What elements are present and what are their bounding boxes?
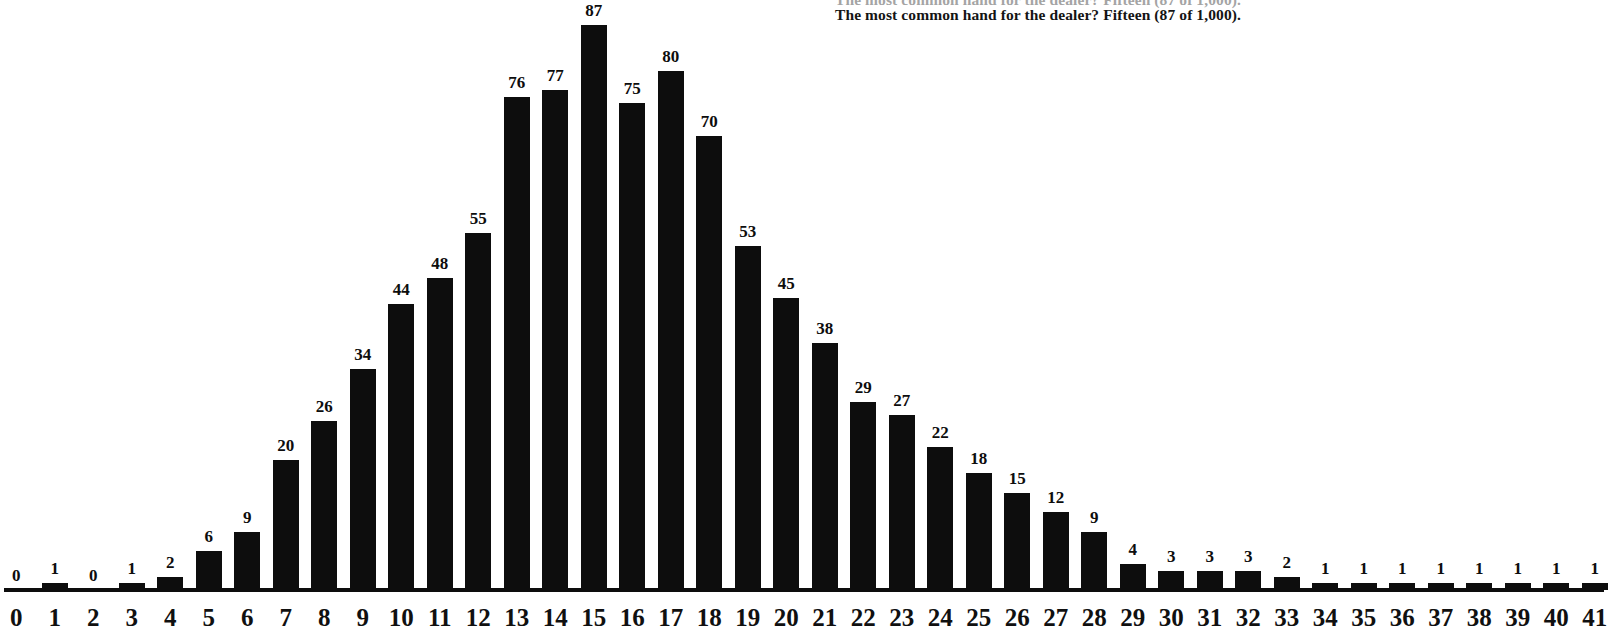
bar-value-label: 1 [1398, 560, 1407, 577]
bar-value-label: 15 [1009, 470, 1026, 487]
bar-slot: 207 [267, 0, 306, 634]
bar-value-label: 80 [662, 48, 679, 65]
bar-slot: 330 [1152, 0, 1191, 634]
x-axis-tick-label: 25 [966, 605, 991, 630]
bar[interactable] [388, 304, 414, 590]
x-axis-tick-label: 30 [1159, 605, 1184, 630]
bar[interactable] [1466, 583, 1492, 590]
bar[interactable] [658, 71, 684, 590]
bar-value-label: 34 [354, 346, 371, 363]
bar-value-label: 3 [1206, 548, 1215, 565]
bar-slot: 928 [1075, 0, 1114, 634]
bar-value-label: 1 [1321, 560, 1330, 577]
bar-slot: 331 [1191, 0, 1230, 634]
bar-slot: 00 [0, 0, 36, 634]
bar[interactable] [735, 246, 761, 590]
bar[interactable] [1428, 583, 1454, 590]
bar-slot: 134 [1306, 0, 1345, 634]
bar[interactable] [619, 103, 645, 590]
bar[interactable] [1543, 583, 1569, 590]
bar-value-label: 1 [1552, 560, 1561, 577]
bar-slot: 4520 [767, 0, 806, 634]
bar[interactable] [966, 473, 992, 590]
bar[interactable] [812, 343, 838, 590]
bar-slot: 141 [1576, 0, 1611, 634]
bar[interactable] [1235, 571, 1261, 590]
bar-value-label: 3 [1244, 548, 1253, 565]
bar[interactable] [1081, 532, 1107, 590]
bar-value-label: 29 [855, 379, 872, 396]
bar[interactable] [427, 278, 453, 590]
bar-slot: 4811 [421, 0, 460, 634]
bar-value-label: 48 [431, 255, 448, 272]
x-axis-tick-label: 9 [357, 605, 370, 630]
bar-value-label: 1 [128, 560, 137, 577]
x-axis-tick-label: 11 [428, 605, 452, 630]
bar[interactable] [504, 97, 530, 590]
bar[interactable] [1351, 583, 1377, 590]
bar-slot: 429 [1114, 0, 1153, 634]
bar[interactable] [311, 421, 337, 590]
bar-value-label: 1 [1591, 560, 1600, 577]
bar-slot: 2922 [844, 0, 883, 634]
bar-slot: 233 [1268, 0, 1307, 634]
bar-slot: 268 [305, 0, 344, 634]
x-axis-tick-label: 15 [581, 605, 606, 630]
x-axis-tick-label: 38 [1467, 605, 1492, 630]
x-axis-tick-label: 5 [203, 605, 216, 630]
bar[interactable] [196, 551, 222, 590]
bar[interactable] [542, 90, 568, 590]
x-axis-tick-label: 17 [658, 605, 683, 630]
bar[interactable] [1197, 571, 1223, 590]
bar[interactable] [465, 233, 491, 590]
bar[interactable] [157, 577, 183, 590]
bar[interactable] [42, 583, 68, 590]
x-axis-tick-label: 1 [49, 605, 62, 630]
bar[interactable] [1120, 564, 1146, 590]
x-axis-tick-label: 24 [928, 605, 953, 630]
bar[interactable] [696, 136, 722, 590]
bar-slot: 5512 [459, 0, 498, 634]
bar-slot: 7613 [498, 0, 537, 634]
x-axis-tick-label: 0 [10, 605, 23, 630]
bar-value-label: 9 [1090, 509, 1099, 526]
bar[interactable] [1158, 571, 1184, 590]
bar-value-label: 12 [1047, 489, 1064, 506]
bar-slot: 3821 [806, 0, 845, 634]
bar-slot: 138 [1460, 0, 1499, 634]
bar[interactable] [273, 460, 299, 590]
bar-value-label: 22 [932, 424, 949, 441]
x-axis-tick-label: 14 [543, 605, 568, 630]
x-axis-tick-label: 29 [1120, 605, 1145, 630]
bar-value-label: 70 [701, 113, 718, 130]
bar[interactable] [1043, 512, 1069, 590]
bar[interactable] [1312, 583, 1338, 590]
bar-slot: 13 [113, 0, 152, 634]
bar-value-label: 44 [393, 281, 410, 298]
bar-slot: 2224 [921, 0, 960, 634]
bar[interactable] [889, 415, 915, 590]
bar[interactable] [1274, 577, 1300, 590]
bar[interactable] [1505, 583, 1531, 590]
bar-value-label: 0 [89, 567, 98, 584]
bar[interactable] [234, 532, 260, 590]
bar-slot: 7516 [613, 0, 652, 634]
bar-value-label: 20 [277, 437, 294, 454]
bar[interactable] [1004, 493, 1030, 590]
x-axis-tick-label: 34 [1313, 605, 1338, 630]
bar-slot: 7714 [536, 0, 575, 634]
bar[interactable] [350, 369, 376, 590]
bar[interactable] [119, 583, 145, 590]
bar[interactable] [773, 298, 799, 590]
bar[interactable] [850, 402, 876, 590]
bar-chart: 0011021324659620726834944104811551276137… [0, 0, 1611, 634]
bar[interactable] [927, 447, 953, 590]
bar-slot: 140 [1537, 0, 1576, 634]
bar-value-label: 2 [1283, 554, 1292, 571]
x-axis-tick-label: 37 [1428, 605, 1453, 630]
x-axis-tick-label: 31 [1197, 605, 1222, 630]
bar[interactable] [1582, 583, 1608, 590]
bar[interactable] [1389, 583, 1415, 590]
x-axis-tick-label: 23 [889, 605, 914, 630]
bar[interactable] [581, 25, 607, 590]
